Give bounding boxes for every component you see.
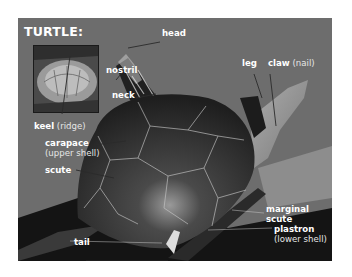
label-tail: tail [74,237,90,247]
label-carapace: carapace (upper shell) [45,138,100,158]
turtle-photo: TURTLE: [18,18,332,261]
label-nostril: nostril [106,65,137,75]
label-plastron: plastron (lower shell) [274,224,327,244]
shell-closeup-image [34,46,98,112]
label-claw: claw (nail) [268,58,315,68]
figure-title: TURTLE: [24,24,83,39]
keel-inset-photo [33,45,99,113]
label-keel: keel (ridge) [34,121,86,131]
label-marginal-scute: marginal scute [266,204,309,224]
label-head: head [162,28,186,38]
label-scute: scute [45,165,71,175]
label-leg: leg [242,58,257,68]
label-neck: neck [112,90,135,100]
